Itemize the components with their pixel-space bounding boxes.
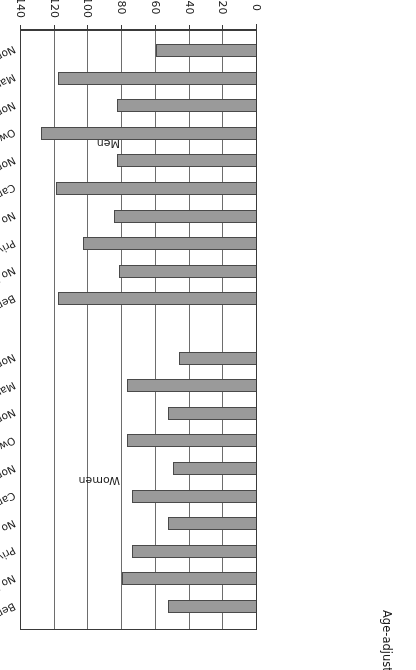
bar-women-6: [168, 517, 257, 530]
gridline-100: [87, 30, 88, 630]
bar-chart: Age-adjusted mean years exposure 0204060…: [0, 0, 416, 670]
plot-bottom-border: [21, 30, 257, 31]
bar-women-9: [168, 600, 257, 613]
gridline-140: [20, 30, 21, 630]
bar-women-2: [168, 407, 257, 420]
group-label-men: Men: [97, 137, 120, 150]
tick-label-100: 100: [82, 0, 95, 23]
gridline-40: [189, 30, 190, 630]
bar-men-6: [114, 210, 257, 223]
category-label-women-9: Benefits***: [0, 600, 18, 638]
bar-women-5: [132, 490, 257, 503]
value-axis-line: [256, 24, 257, 630]
tick-label-60: 60: [149, 0, 162, 23]
gridline-120: [54, 30, 55, 630]
plot-top-border: [21, 629, 257, 630]
tick-label-120: 120: [48, 0, 61, 23]
plot-area: [21, 30, 257, 630]
tick-label-20: 20: [217, 0, 230, 23]
tick-label-80: 80: [116, 0, 129, 23]
bar-women-3: [127, 434, 257, 447]
bar-men-2: [117, 99, 257, 112]
rotated-figure-wrapper: Age-adjusted mean years exposure 0204060…: [0, 0, 416, 670]
bar-men-5: [56, 182, 257, 195]
gridline-60: [155, 30, 156, 630]
axis-title-value: Age-adjusted mean years exposure: [380, 610, 394, 670]
bar-women-4: [173, 462, 257, 475]
gridline-20: [222, 30, 223, 630]
bar-women-1: [127, 379, 257, 392]
bar-women-8: [122, 572, 257, 585]
tick-label-0: 0: [251, 0, 264, 23]
bar-men-3: [41, 127, 257, 140]
group-label-women: Women: [79, 474, 120, 487]
tick-label-140: 140: [15, 0, 28, 23]
tick-label-40: 40: [183, 0, 196, 23]
bar-men-7: [83, 237, 257, 250]
category-axis-line: [21, 29, 257, 30]
bar-men-9: [58, 292, 257, 305]
bar-men-0: [156, 44, 257, 57]
bar-women-7: [132, 545, 257, 558]
category-label-men-9: Benefits***: [0, 293, 18, 331]
bar-men-1: [58, 72, 257, 85]
bar-men-8: [119, 265, 257, 278]
bar-men-4: [117, 154, 257, 167]
gridline-80: [121, 30, 122, 630]
bar-women-0: [179, 352, 257, 365]
